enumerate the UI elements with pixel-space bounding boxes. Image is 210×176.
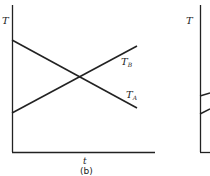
label-tb: TB xyxy=(121,56,133,68)
x-axis-label: t xyxy=(83,156,87,166)
line-tb xyxy=(12,46,137,113)
line-partial-2 xyxy=(200,109,210,114)
panel-caption: (b) xyxy=(80,166,93,176)
line-partial-1 xyxy=(200,93,210,96)
label-ta: TA xyxy=(126,89,138,101)
y-axis-label: T xyxy=(2,15,10,26)
line-ta xyxy=(12,40,137,108)
y-axis-label-partial: T xyxy=(186,15,194,26)
diagram-canvas: T t TB TA (b) T xyxy=(0,0,210,176)
